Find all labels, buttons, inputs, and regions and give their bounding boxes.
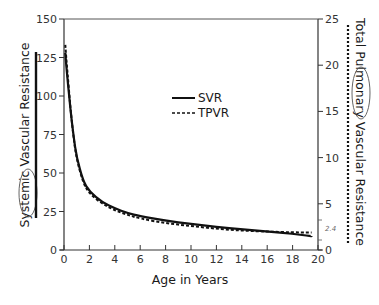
right-axis-title-group: Total Pulmonary Vascular Resistance [348, 17, 370, 246]
svr-series-line [65, 53, 311, 236]
x-tick-label: 6 [137, 253, 144, 266]
y2-tick-label: 25 [325, 13, 339, 26]
x-tick-label: 0 [61, 253, 68, 266]
y-tick-label: 150 [36, 13, 57, 26]
y-tick-label: 75 [43, 129, 57, 142]
resistance-chart: 02468101214161820 0255075100125150 05101… [0, 0, 379, 305]
x-tick-label: 2 [86, 253, 93, 266]
legend-svr-label: SVR [198, 91, 222, 105]
x-tick-label: 12 [209, 253, 223, 266]
y-tick-label: 100 [36, 90, 57, 103]
legend: SVR TPVR [172, 91, 229, 120]
left-axis-title-group: Systemic Vascular Resistance [17, 42, 37, 227]
x-tick-label: 8 [162, 253, 169, 266]
y2-tick-label: 15 [325, 105, 339, 118]
x-axis-ticks: 02468101214161820 [61, 245, 326, 266]
y-tick-label: 50 [43, 167, 57, 180]
y-tick-label: 125 [36, 52, 57, 65]
right-axis-title: Total Pulmonary Vascular Resistance [353, 17, 368, 246]
x-tick-label: 14 [235, 253, 249, 266]
handwritten-note: 2.4 [325, 225, 336, 233]
y-tick-label: 0 [50, 244, 57, 257]
y2-tick-label: 10 [325, 152, 339, 165]
x-tick-label: 10 [184, 253, 198, 266]
x-tick-label: 16 [260, 253, 274, 266]
y2-tick-label: 0 [325, 244, 332, 257]
legend-tpvr-label: TPVR [197, 106, 229, 120]
y2-tick-label: 20 [325, 59, 339, 72]
y2-tick-label: 5 [325, 198, 332, 211]
x-axis-title: Age in Years [152, 272, 229, 287]
left-axis-ticks: 0255075100125150 [36, 13, 64, 257]
y-tick-label: 25 [43, 206, 57, 219]
x-tick-label: 20 [311, 253, 325, 266]
tpvr-series-line [65, 45, 311, 233]
x-tick-label: 4 [111, 253, 118, 266]
x-tick-label: 18 [286, 253, 300, 266]
